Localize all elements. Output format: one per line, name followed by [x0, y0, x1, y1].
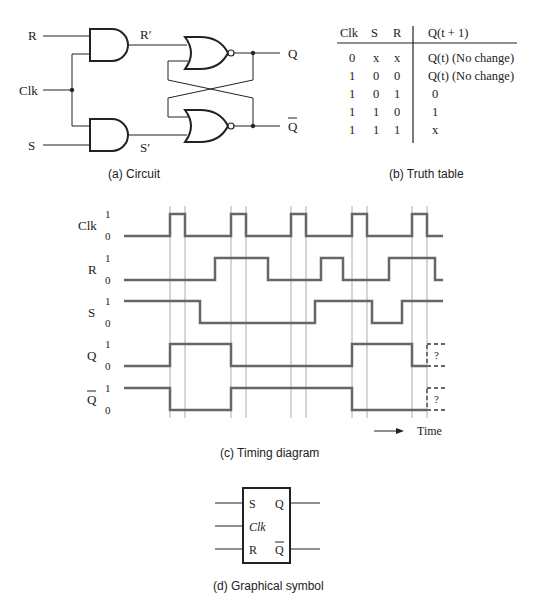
signal-q-label: Q	[87, 348, 97, 363]
waveform-qbar	[124, 388, 427, 410]
pin-qbar-label: Q	[275, 543, 284, 557]
header-s: S	[371, 26, 378, 40]
cell: 1	[373, 123, 379, 137]
circuit-caption: (a) Circuit	[108, 167, 161, 181]
header-qnext: Q(t + 1)	[428, 26, 468, 40]
waveform-q	[124, 344, 427, 366]
signal-labels: Clk R S Q Q	[78, 218, 97, 407]
svg-text:0: 0	[105, 317, 111, 329]
svg-text:1: 1	[105, 338, 111, 350]
cell: 0	[394, 105, 400, 119]
and-gate-top	[90, 29, 128, 61]
cell: 0	[394, 69, 400, 83]
cell: 0	[373, 69, 379, 83]
pin-clk-label: Clk	[249, 520, 266, 534]
svg-text:1: 1	[105, 252, 111, 264]
cell: 1	[432, 105, 438, 119]
inverter-bubble	[228, 123, 234, 129]
header-clk: Clk	[340, 26, 359, 40]
cell: 1	[349, 105, 355, 119]
pin-r-label: R	[249, 543, 257, 557]
cell: 1	[349, 123, 355, 137]
svg-text:0: 0	[105, 360, 111, 372]
nor-gate-bottom	[185, 110, 228, 142]
clock-edge-guides	[170, 206, 427, 418]
timing-diagram: ? ? Clk R S Q Q 1 0 1 0 1 0 1 0 1 0	[78, 206, 445, 438]
cell: 1	[394, 87, 400, 101]
waveform-clk	[124, 214, 443, 236]
cell: 1	[373, 105, 379, 119]
cell: 1	[394, 123, 400, 137]
cell: 1	[349, 87, 355, 101]
circuit	[43, 29, 280, 151]
signal-qbar-label: Q	[87, 392, 97, 407]
input-r-label: R	[28, 28, 37, 43]
output-q-label: Q	[288, 46, 298, 61]
signal-r-label: R	[88, 262, 97, 277]
input-clk-label: Clk	[19, 83, 38, 98]
time-arrow	[374, 428, 404, 434]
svg-text:0: 0	[105, 404, 111, 416]
timing-caption: (c) Timing diagram	[220, 446, 319, 460]
pin-s-label: S	[249, 497, 256, 511]
signal-s-label: S	[88, 305, 95, 320]
s-prime-label: S′	[140, 140, 150, 155]
inverter-bubble	[228, 50, 234, 56]
svg-text:1: 1	[105, 295, 111, 307]
cell: 0	[432, 87, 438, 101]
cell: x	[394, 51, 401, 65]
cell: 0	[373, 87, 379, 101]
truth-table: Clk S R Q(t + 1) 0 x x Q(t) (No change) …	[337, 26, 517, 143]
output-qbar-label: Q	[288, 119, 298, 134]
svg-text:1: 1	[105, 208, 111, 220]
graphical-symbol: S Clk R Q Q	[215, 488, 320, 563]
circuit-labels: R Clk S R′ S′ Q Q	[19, 27, 298, 155]
nor-gate-top	[185, 37, 228, 69]
time-label: Time	[417, 424, 442, 438]
cell: x	[432, 123, 439, 137]
svg-text:0: 0	[105, 274, 111, 286]
cell: x	[373, 51, 380, 65]
unknown-mark-qbar: ?	[434, 393, 439, 405]
symbol-caption: (d) Graphical symbol	[213, 579, 324, 593]
level-labels: 1 0 1 0 1 0 1 0 1 0	[105, 208, 111, 416]
cell: 1	[349, 69, 355, 83]
svg-text:1: 1	[105, 382, 111, 394]
header-r: R	[393, 26, 402, 40]
junction-dot	[70, 88, 74, 92]
r-prime-label: R′	[140, 27, 152, 42]
gated-sr-latch-figure: R Clk S R′ S′ Q Q (a) Circuit Clk S R Q(…	[0, 0, 533, 605]
input-s-label: S	[28, 138, 35, 153]
waveform-s	[124, 301, 443, 323]
truth-table-caption: (b) Truth table	[389, 167, 464, 181]
waveform-r	[124, 258, 443, 280]
cell: Q(t) (No change)	[428, 51, 514, 65]
signal-clk-label: Clk	[78, 218, 97, 233]
pin-q-label: Q	[275, 497, 284, 511]
and-gate-bottom	[90, 119, 128, 151]
cell: Q(t) (No change)	[428, 69, 514, 83]
unknown-mark-q: ?	[434, 349, 439, 361]
svg-text:0: 0	[105, 230, 111, 242]
cell: 0	[349, 51, 355, 65]
